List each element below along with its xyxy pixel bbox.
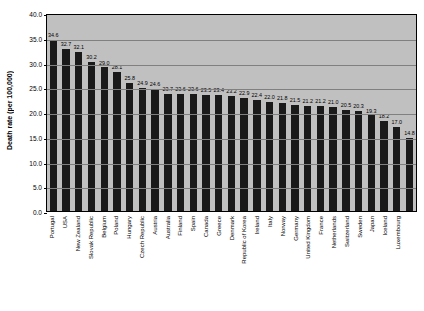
x-axis-tick-label: Hungary <box>126 216 132 239</box>
x-axis-label-slot: Sweden <box>353 214 366 309</box>
y-axis-tick-label: 25.0 <box>29 85 42 92</box>
bar <box>279 103 286 211</box>
bar-value-label: 20.5 <box>341 103 352 108</box>
x-axis-label-slot: Slovak Republic <box>84 214 97 309</box>
x-axis-label-slot: Italy <box>264 214 277 309</box>
bar <box>355 111 362 211</box>
x-axis-label-slot: Luxembourg <box>392 214 405 309</box>
bar-slot: 23.7 <box>161 15 174 211</box>
bar-value-label: 25.8 <box>124 76 135 81</box>
gridline <box>47 65 416 66</box>
bar-value-label: 34.6 <box>48 33 59 38</box>
x-axis-tick-label: New Zealand <box>75 216 81 251</box>
x-axis-tick-label: Finland <box>177 216 183 236</box>
y-axis-tick-mark <box>44 15 47 16</box>
bar-slot: 17.0 <box>390 15 403 211</box>
x-axis-label-slot: Ireland <box>251 214 264 309</box>
y-axis-tick-label: 15.0 <box>29 134 42 141</box>
y-axis-tick-mark <box>44 188 47 189</box>
x-axis-tick-label: Slovak Republic <box>88 216 94 259</box>
x-axis-tick-label: Norway <box>280 216 286 236</box>
x-axis-tick-label: Belgium <box>101 216 107 238</box>
bar-value-label: 21.0 <box>328 100 339 105</box>
bar-slot: 24.9 <box>136 15 149 211</box>
bar-slot: 21.8 <box>276 15 289 211</box>
bar-slot: 21.2 <box>301 15 314 211</box>
bar-value-label: 32.1 <box>74 45 85 50</box>
bar-slot: 21.5 <box>289 15 302 211</box>
bar-value-label: 14.8 <box>404 131 415 136</box>
x-axis-tick-label: Poland <box>113 216 119 235</box>
bar-slot: 21.0 <box>327 15 340 211</box>
bar-value-label: 21.8 <box>277 96 288 101</box>
x-axis-tick-label: Spain <box>190 216 196 231</box>
x-axis-tick-label: Australia <box>165 216 171 239</box>
bar-slot: 28.1 <box>111 15 124 211</box>
bar <box>380 121 387 211</box>
x-axis-label-slot: Australia <box>161 214 174 309</box>
bar-slot: 23.2 <box>225 15 238 211</box>
bar-slot: 23.6 <box>174 15 187 211</box>
gridline <box>47 40 416 41</box>
bar <box>304 106 311 211</box>
x-axis-tick-label: Greece <box>216 216 222 236</box>
x-axis-label-slot: Poland <box>110 214 123 309</box>
x-axis-label-slot <box>404 214 417 309</box>
bar-slot: 20.5 <box>340 15 353 211</box>
x-axis-label-slot: Netherlands <box>328 214 341 309</box>
y-axis-tick-mark <box>44 164 47 165</box>
x-axis-tick-label: Denmark <box>229 216 235 240</box>
bar <box>177 94 184 211</box>
bar <box>113 72 120 211</box>
gridline <box>47 188 416 189</box>
y-axis-title-text: Death rate (per 100,000) <box>6 71 13 150</box>
bar-slot: 19.3 <box>365 15 378 211</box>
bar-slot: 14.8 <box>403 15 416 211</box>
x-axis-label-slot: Belgium <box>97 214 110 309</box>
gridline <box>47 89 416 90</box>
bar-slot: 32.7 <box>60 15 73 211</box>
y-axis-tick-label: 0.0 <box>33 209 42 216</box>
bar-slot: 23.5 <box>200 15 213 211</box>
bar-slot: 18.2 <box>378 15 391 211</box>
x-axis-tick-label: Italy <box>267 216 273 227</box>
x-axis-tick-label: Canada <box>203 216 209 237</box>
bar-value-label: 17.0 <box>392 120 403 125</box>
x-axis-tick-label: United Kingdom <box>305 216 311 259</box>
x-axis-label-slot: Portugal <box>46 214 59 309</box>
y-axis-tick-mark <box>44 40 47 41</box>
bar <box>75 52 82 211</box>
bar-slot: 24.6 <box>149 15 162 211</box>
y-axis-tick-mark <box>44 89 47 90</box>
gridline <box>47 164 416 165</box>
bar-slot: 22.4 <box>251 15 264 211</box>
bar-value-label: 22.9 <box>239 91 250 96</box>
x-axis-label-slot: Republic of Korea <box>238 214 251 309</box>
bar-value-label: 22.4 <box>252 93 263 98</box>
x-axis-tick-label: Switzerland <box>344 216 350 247</box>
bar-slot: 23.6 <box>187 15 200 211</box>
x-axis-tick-label: Iceland <box>382 216 388 235</box>
bar <box>151 89 158 211</box>
x-axis-tick-label: Republic of Korea <box>241 216 247 264</box>
y-axis-tick-label: 40.0 <box>29 11 42 18</box>
bar <box>266 102 273 211</box>
x-axis-label-slot: United Kingdom <box>302 214 315 309</box>
bar <box>342 110 349 211</box>
bar <box>329 107 336 211</box>
x-axis-label-slot: France <box>315 214 328 309</box>
bar-value-label: 30.2 <box>86 55 97 60</box>
x-axis-label-slot: Germany <box>289 214 302 309</box>
bar-slot: 20.3 <box>352 15 365 211</box>
x-axis-tick-label: Germany <box>293 216 299 241</box>
bar <box>62 49 69 211</box>
x-axis-label-slot: Hungary <box>123 214 136 309</box>
x-axis-tick-label: USA <box>62 216 68 228</box>
bar-value-label: 21.2 <box>302 99 313 104</box>
bar-value-label: 24.6 <box>150 82 161 87</box>
y-axis-tick-label: 20.0 <box>29 110 42 117</box>
gridline <box>47 139 416 140</box>
x-axis-label-slot: Greece <box>212 214 225 309</box>
x-axis-label-slot: New Zealand <box>72 214 85 309</box>
plot-area: 34.632.732.130.229.028.125.824.924.623.7… <box>46 14 417 212</box>
